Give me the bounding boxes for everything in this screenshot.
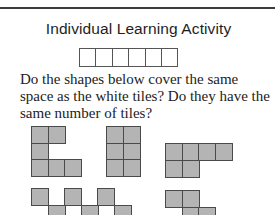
gray-tile [81,205,99,216]
white-tile [80,49,96,66]
white-tile [162,49,178,66]
gray-tile [106,159,124,177]
gray-tile [123,143,141,161]
gray-tile [48,126,66,144]
page-title: Individual Learning Activity [0,20,277,38]
gray-tile [123,126,141,144]
white-tile [96,49,112,66]
gray-tile [165,143,183,161]
gray-tile [215,143,233,161]
gray-tile [198,207,216,216]
gray-tile [123,159,141,177]
gray-tile [48,159,66,177]
gray-tile [182,160,200,178]
gray-tile [64,159,82,177]
gray-tile [48,205,66,216]
top-rule [0,7,275,9]
white-tile [129,49,145,66]
gray-tile [182,190,200,208]
gray-tile [106,126,124,144]
gray-tile [182,207,200,216]
question-text: Do the shapes below cover the same space… [20,71,270,121]
gray-tile [31,188,49,206]
white-tile [113,49,129,66]
gray-tile [31,159,49,177]
white-tile-strip [79,48,178,67]
gray-tile [114,205,132,216]
gray-tile [165,160,183,178]
gray-tile [31,143,49,161]
gray-tile [31,126,49,144]
gray-tile [182,143,200,161]
gray-tile [106,143,124,161]
gray-tile [165,190,183,208]
gray-tile [64,188,82,206]
gray-tile [97,188,115,206]
white-tile [146,49,162,66]
gray-tile [198,143,216,161]
